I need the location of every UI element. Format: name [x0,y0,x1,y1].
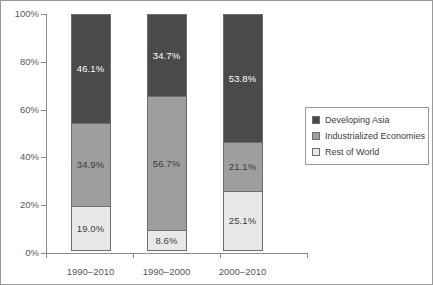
y-axis-tick-mark [41,110,46,111]
legend-item-label: Rest of World [325,148,379,157]
bar-segment-value-label: 19.0% [77,224,104,234]
legend-item[interactable]: Developing Asia [312,113,423,127]
chart-legend: Developing AsiaIndustrialized EconomiesR… [305,107,429,165]
stacked-bar-chart-figure: 100%80%60%40%20%0% 1990–20101990–2000200… [0,0,433,285]
plot-area: 100%80%60%40%20%0% 1990–20101990–2000200… [46,14,307,253]
stacked-bar[interactable]: 34.7%56.7%8.6% [147,14,187,253]
bar-segment[interactable]: 21.1% [223,142,263,192]
y-axis-tick-label: 0% [25,248,39,258]
y-axis-tick-label: 20% [20,200,39,210]
bar-segment[interactable]: 46.1% [71,14,111,124]
stacked-bar[interactable]: 53.8%21.1%25.1% [223,14,263,253]
bar-segment-value-label: 53.8% [229,74,256,84]
x-axis-tick-label: 2000–2010 [219,267,267,277]
y-axis-tick-mark [41,157,46,158]
y-axis-tick-label: 40% [20,153,39,163]
x-axis-tick-label: 1990–2010 [67,267,115,277]
bar-segment-value-label: 34.9% [77,160,104,170]
bar-segment-value-label: 56.7% [153,159,180,169]
bar-segment[interactable]: 8.6% [147,230,187,251]
bar-segment-value-label: 21.1% [229,162,256,172]
stacked-bar[interactable]: 46.1%34.9%19.0% [71,14,111,253]
y-axis-tick-label: 60% [20,105,39,115]
legend-item-label: Developing Asia [325,116,390,125]
legend-swatch-icon [312,132,320,140]
legend-item[interactable]: Rest of World [312,145,423,159]
y-axis-line [46,14,47,253]
x-axis-line [46,253,307,254]
y-axis-tick-mark [41,62,46,63]
x-axis-tick-label: 1990–2000 [143,267,191,277]
legend-swatch-icon [312,148,320,156]
bar-segment-value-label: 46.1% [77,64,104,74]
bar-segment[interactable]: 25.1% [223,191,263,251]
x-axis-tick-mark [220,253,221,258]
x-axis-tick-mark [46,253,47,258]
y-axis-tick-label: 80% [20,57,39,67]
bar-segment-value-label: 8.6% [155,236,177,246]
x-axis-tick-mark [133,253,134,258]
y-axis-tick-label: 100% [15,9,39,19]
bar-segment-value-label: 25.1% [229,216,256,226]
bar-segment-value-label: 34.7% [153,51,180,61]
bar-segment[interactable]: 53.8% [223,14,263,143]
bar-segment[interactable]: 56.7% [147,96,187,232]
y-axis-tick-mark [41,205,46,206]
legend-swatch-icon [312,116,320,124]
y-axis-tick-mark [41,14,46,15]
legend-item[interactable]: Industrialized Economies [312,129,423,143]
bar-segment[interactable]: 34.7% [147,14,187,97]
bar-segment[interactable]: 34.9% [71,123,111,206]
legend-item-label: Industrialized Economies [325,132,425,141]
bar-segment[interactable]: 19.0% [71,206,111,251]
x-axis-tick-mark [307,253,308,258]
